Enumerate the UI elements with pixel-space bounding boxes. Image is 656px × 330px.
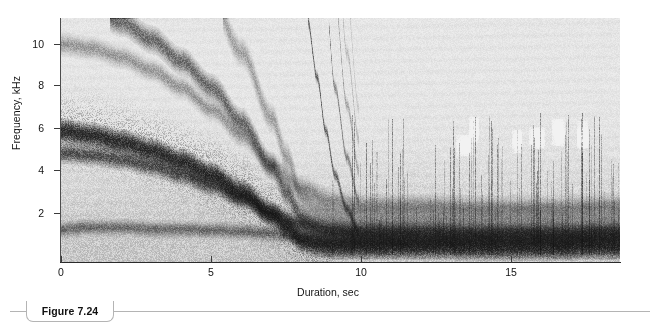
y-tick-mark-2 — [54, 213, 60, 214]
x-tick-mark-15 — [511, 256, 512, 263]
x-tick-label-0: 0 — [46, 267, 76, 278]
y-axis-line — [60, 18, 61, 263]
x-tick-mark-5 — [211, 256, 212, 263]
y-tick-mark-4 — [54, 170, 60, 171]
x-tick-label-5: 5 — [196, 267, 226, 278]
figure-number-label: Figure 7.24 — [26, 302, 114, 322]
x-axis-title: Duration, sec — [0, 286, 656, 298]
x-tick-label-15: 15 — [496, 267, 526, 278]
y-tick-mark-10 — [54, 44, 60, 45]
spectrogram-image — [61, 18, 620, 262]
y-axis-title: Frequency, kHz — [10, 63, 22, 163]
y-tick-label-10: 10 — [14, 39, 44, 49]
spectrogram-plot — [61, 18, 620, 262]
x-tick-mark-10 — [361, 256, 362, 263]
y-tick-label-4: 4 — [14, 165, 44, 175]
y-tick-mark-6 — [54, 128, 60, 129]
figure-caption-bar: Figure 7.24 — [0, 300, 656, 324]
x-tick-mark-0 — [61, 256, 62, 263]
x-tick-label-10: 10 — [346, 267, 376, 278]
caption-rule-right — [112, 311, 650, 312]
figure-container: 10 8 6 4 2 0 5 10 15 Frequency, kHz Dura… — [0, 0, 656, 330]
x-axis-line — [60, 262, 621, 263]
y-tick-label-2: 2 — [14, 208, 44, 218]
y-tick-mark-8 — [54, 85, 60, 86]
